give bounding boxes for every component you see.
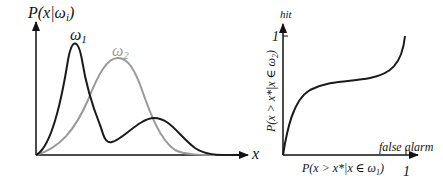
label-omega1: ω1 [70, 26, 87, 45]
curve-omega1 [36, 44, 240, 156]
label-omega2: ω2 [112, 42, 129, 61]
left-plot: P(x|ωi) x ω1 ω2 [27, 4, 259, 162]
right-y-label: P(x > x*|x ∈ ω2) [264, 50, 280, 133]
hit-label: hit [280, 8, 293, 20]
y-tick-label: 1 [272, 29, 279, 44]
left-x-label: x [251, 145, 259, 162]
right-x-label: P(x > x*|x ∈ ω1) [301, 161, 384, 177]
roc-curve [283, 36, 405, 155]
right-plot: hit 1 false alarm 1 P(x > x*|x ∈ ω1) P(x… [264, 8, 434, 179]
diagram: P(x|ωi) x ω1 ω2 hit 1 false alarm 1 P(x … [0, 0, 443, 181]
curve-omega2 [36, 58, 215, 155]
x-tick-label: 1 [403, 164, 410, 179]
left-y-label: P(x|ωi) [27, 4, 74, 23]
false-alarm-label: false alarm [379, 140, 434, 154]
